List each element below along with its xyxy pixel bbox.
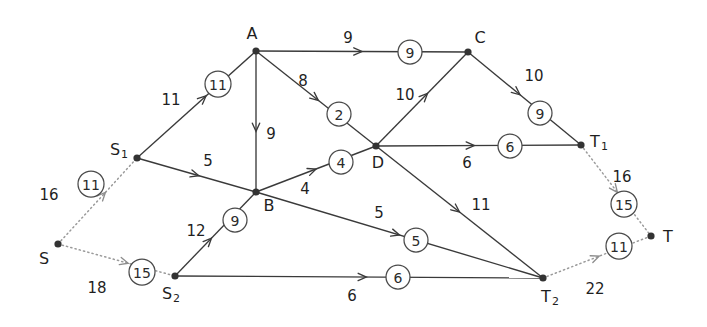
edge-D-T1[interactable]: [376, 142, 581, 149]
node-sub-S1: 1: [121, 148, 128, 161]
node-S[interactable]: S: [39, 240, 62, 267]
node-label-S: S: [39, 249, 49, 268]
capacity-label-T1-T: 15: [615, 197, 633, 213]
capacity-label-A-C: 9: [406, 45, 415, 61]
node-dot-S2: [171, 272, 178, 279]
node-dot-S: [54, 240, 61, 247]
capacity-D-T1: 6: [498, 134, 522, 158]
capacity-T1-T: 15: [611, 191, 637, 217]
cost-label-A-B: 9: [266, 125, 276, 143]
edge-S-S1[interactable]: [58, 158, 137, 244]
network-graph-canvas: SS1S2ABCDT1T2T 111511992459661511 161811…: [0, 0, 707, 327]
node-label-T1: T1: [589, 132, 608, 153]
capacity-C-T1: 9: [528, 101, 552, 125]
node-sub-S2: 2: [173, 292, 180, 305]
node-label-A: A: [247, 24, 258, 43]
capacity-S2-T2: 6: [386, 265, 410, 289]
capacity-B-T2: 5: [404, 228, 428, 252]
node-T1[interactable]: T1: [577, 132, 607, 153]
edge-A-B[interactable]: [252, 51, 259, 192]
node-sub-T2: 2: [552, 295, 559, 308]
edge-line-S-S1: [58, 158, 137, 244]
capacity-T2-T: 11: [606, 233, 632, 259]
capacity-label-C-T1: 9: [536, 106, 545, 122]
node-label-D: D: [372, 153, 384, 172]
capacity-A-C: 9: [398, 40, 422, 64]
edge-line-S1-B: [137, 158, 256, 192]
capacity-label-S2-T2: 6: [394, 270, 403, 286]
node-dot-T2: [539, 274, 546, 281]
edge-line-S2-T2: [175, 276, 543, 278]
node-dot-D: [372, 142, 379, 149]
cost-label-S1-B: 5: [203, 152, 213, 170]
node-dot-T1: [577, 141, 584, 148]
edge-A-C[interactable]: [256, 48, 468, 55]
node-A[interactable]: A: [247, 24, 260, 55]
edge-line-D-C: [376, 52, 468, 146]
arrow-head-S-S2: [119, 257, 128, 264]
node-dot-S1: [133, 154, 140, 161]
node-label-C: C: [474, 28, 485, 47]
cost-label-S1-A: 11: [161, 91, 180, 109]
cost-label-T1-T: 16: [612, 168, 631, 186]
node-S1[interactable]: S1: [110, 140, 141, 162]
capacity-label-D-T1: 6: [506, 139, 515, 155]
edge-D-C[interactable]: [376, 52, 468, 146]
edge-S1-B[interactable]: [137, 158, 256, 192]
edge-T1-T[interactable]: [581, 145, 651, 236]
edge-S-S2[interactable]: [58, 244, 175, 276]
edge-C-T1[interactable]: [468, 52, 581, 145]
capacity-S1-A: 11: [205, 71, 231, 97]
capacity-label-B-D: 4: [337, 155, 346, 171]
cost-label-S-S2: 18: [87, 279, 106, 297]
edge-line-T1-T: [581, 145, 651, 236]
node-T[interactable]: T: [647, 227, 673, 246]
node-D[interactable]: D: [372, 142, 384, 171]
capacity-label-S1-A: 11: [209, 77, 227, 93]
cost-label-S2-B: 12: [186, 222, 205, 240]
node-label-S1: S1: [110, 140, 128, 161]
edge-line-C-T1: [468, 52, 581, 145]
edge-line-T2-T: [543, 236, 651, 278]
capacity-label-S2-B: 9: [231, 213, 240, 229]
cost-label-B-D: 4: [300, 180, 310, 198]
edge-line-D-T1: [376, 145, 581, 146]
capacity-S-S2: 15: [129, 259, 155, 285]
cost-label-D-C: 10: [395, 86, 414, 104]
cost-label-B-T2: 5: [374, 204, 384, 222]
node-dot-C: [464, 48, 471, 55]
edge-S1-A[interactable]: [137, 51, 256, 158]
capacity-S-S1: 11: [78, 171, 104, 197]
node-dot-A: [252, 47, 259, 54]
node-label-S2: S2: [162, 284, 180, 305]
edge-D-T2[interactable]: [376, 146, 543, 278]
edges-layer: [58, 48, 651, 281]
node-label-B: B: [264, 196, 275, 215]
edge-T2-T[interactable]: [543, 236, 651, 278]
network-diagram: SS1S2ABCDT1T2T 111511992459661511 161811…: [0, 0, 707, 327]
capacity-S2-B: 9: [223, 208, 247, 232]
capacity-label-S-S2: 15: [133, 265, 151, 281]
node-label-T: T: [662, 227, 673, 246]
node-B[interactable]: B: [252, 188, 274, 214]
node-T2[interactable]: T2: [539, 274, 558, 307]
capacity-label-A-D: 2: [335, 107, 344, 123]
edge-line-S-S2: [58, 244, 175, 276]
node-S2[interactable]: S2: [162, 272, 180, 304]
cost-label-T2-T: 22: [585, 280, 604, 298]
node-dot-T: [647, 232, 654, 239]
node-C[interactable]: C: [464, 28, 485, 56]
cost-label-D-T2: 11: [471, 196, 490, 214]
cost-label-C-T1: 10: [524, 67, 543, 85]
edge-S2-T2[interactable]: [175, 273, 543, 280]
node-dot-B: [252, 188, 259, 195]
node-sub-T1: 1: [601, 140, 608, 153]
node-label-T2: T2: [540, 287, 559, 308]
edge-line-S1-A: [137, 51, 256, 158]
edge-B-D[interactable]: [256, 146, 376, 192]
cost-label-S2-T2: 6: [347, 287, 357, 305]
capacity-label-T2-T: 11: [610, 239, 628, 255]
capacity-A-D: 2: [327, 102, 351, 126]
capacity-label-B-T2: 5: [412, 233, 421, 249]
cost-label-D-T1: 6: [462, 154, 472, 172]
